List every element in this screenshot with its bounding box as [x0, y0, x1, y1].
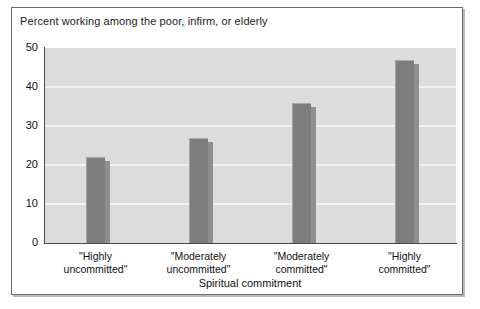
- x-category-label: "Highlycommitted": [353, 250, 457, 275]
- x-category-label: "Moderatelyuncommitted": [147, 250, 251, 275]
- y-axis-line: [44, 47, 45, 244]
- bar: [395, 60, 414, 243]
- x-category-label-line: "Highly: [353, 250, 457, 263]
- x-category-label-line: "Moderately: [250, 250, 354, 263]
- x-category-label: "Highlyuncommitted": [44, 250, 148, 275]
- bar-shadow: [311, 107, 316, 243]
- x-category-label-line: "Highly: [44, 250, 148, 263]
- bar-shadow: [414, 64, 419, 243]
- bar: [292, 103, 311, 243]
- plot-area: [44, 48, 456, 243]
- y-tick-label: 30: [4, 119, 38, 131]
- x-category-label-line: committed": [250, 263, 354, 276]
- bar-shadow: [208, 142, 213, 243]
- chart-title: Percent working among the poor, infirm, …: [20, 15, 268, 27]
- x-category-label-line: uncommitted": [44, 263, 148, 276]
- x-category-label-line: committed": [353, 263, 457, 276]
- x-axis-line: [44, 243, 457, 244]
- x-category-label-line: "Moderately: [147, 250, 251, 263]
- y-tick-label: 50: [4, 41, 38, 53]
- bar: [189, 138, 208, 243]
- x-axis-title: Spiritual commitment: [44, 277, 456, 289]
- bar-shadow: [105, 161, 110, 243]
- y-tick-label: 20: [4, 158, 38, 170]
- y-tick-label: 40: [4, 80, 38, 92]
- bar: [86, 157, 105, 243]
- figure-container: Percent working among the poor, infirm, …: [0, 0, 480, 309]
- y-tick-label: 10: [4, 197, 38, 209]
- y-tick-label: 0: [4, 236, 38, 248]
- x-category-label: "Moderatelycommitted": [250, 250, 354, 275]
- x-category-label-line: uncommitted": [147, 263, 251, 276]
